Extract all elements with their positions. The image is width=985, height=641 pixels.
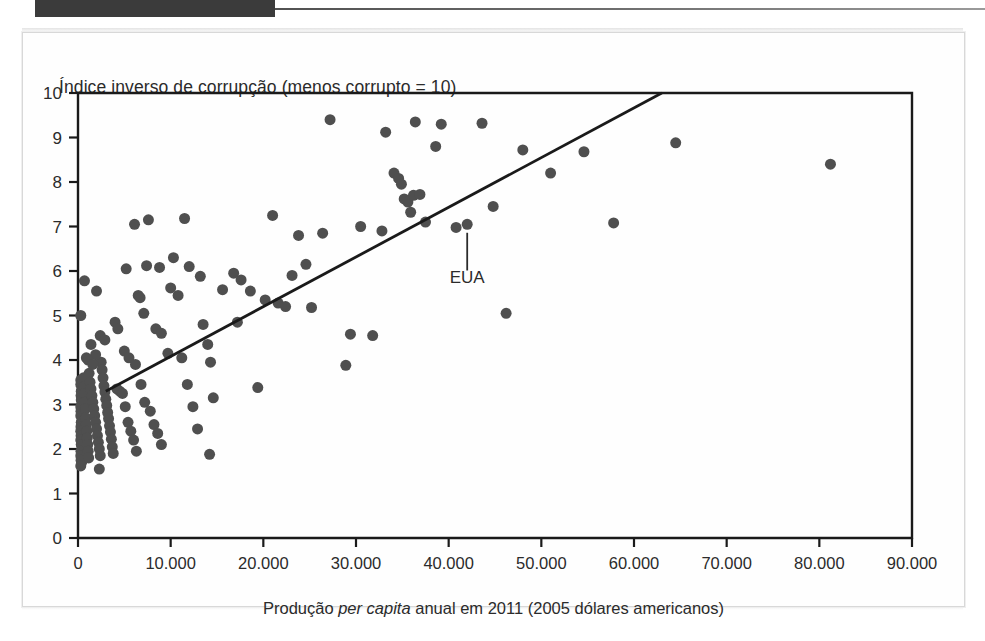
data-point bbox=[117, 388, 128, 399]
data-point bbox=[187, 401, 198, 412]
trendline bbox=[106, 93, 662, 391]
data-point bbox=[75, 460, 86, 471]
data-point bbox=[168, 252, 179, 263]
data-point bbox=[414, 189, 425, 200]
data-point bbox=[236, 274, 247, 285]
data-point bbox=[205, 357, 216, 368]
plot-frame-layer bbox=[78, 93, 912, 538]
data-point bbox=[355, 221, 366, 232]
data-point bbox=[306, 302, 317, 313]
data-point bbox=[94, 464, 105, 475]
data-point bbox=[108, 448, 119, 459]
data-point bbox=[204, 449, 215, 460]
x-tick-label: 30.000 bbox=[331, 554, 381, 572]
x-axis-title-italic: per capita bbox=[338, 599, 410, 617]
data-point bbox=[517, 144, 528, 155]
y-tick-label: 10 bbox=[43, 84, 62, 103]
data-point bbox=[182, 379, 193, 390]
data-point bbox=[136, 379, 147, 390]
y-tick-label: 2 bbox=[53, 440, 62, 459]
data-point bbox=[410, 116, 421, 127]
data-point bbox=[436, 119, 447, 130]
data-point bbox=[367, 330, 378, 341]
data-point bbox=[143, 214, 154, 225]
x-tick-label: 70.000 bbox=[701, 554, 751, 572]
data-point bbox=[129, 219, 140, 230]
data-point bbox=[145, 406, 156, 417]
data-point bbox=[128, 435, 139, 446]
x-tick-label: 0 bbox=[73, 554, 82, 572]
data-point bbox=[293, 230, 304, 241]
data-point bbox=[130, 359, 141, 370]
data-point bbox=[83, 452, 94, 463]
x-tick-label: 60.000 bbox=[609, 554, 659, 572]
y-tick-label: 6 bbox=[53, 262, 62, 281]
y-tick-label: 7 bbox=[53, 218, 62, 237]
data-point bbox=[156, 328, 167, 339]
plot-frame bbox=[78, 93, 912, 538]
x-tick-label: 80.000 bbox=[794, 554, 844, 572]
data-point bbox=[405, 207, 416, 218]
data-point bbox=[208, 392, 219, 403]
data-point bbox=[477, 118, 488, 129]
data-point bbox=[152, 428, 163, 439]
data-point bbox=[396, 179, 407, 190]
data-points-layer bbox=[75, 114, 836, 474]
header-tab-block bbox=[35, 0, 275, 17]
y-tick-label: 9 bbox=[53, 129, 62, 148]
x-axis-title: Produção per capita anual em 2011 (2005 … bbox=[23, 599, 964, 618]
data-point bbox=[179, 213, 190, 224]
data-point bbox=[75, 310, 86, 321]
data-point bbox=[165, 282, 176, 293]
data-point bbox=[287, 270, 298, 281]
data-point bbox=[300, 259, 311, 270]
data-point bbox=[430, 141, 441, 152]
data-point bbox=[267, 210, 278, 221]
data-point bbox=[451, 222, 462, 233]
annotations-layer: EUA bbox=[450, 233, 486, 288]
data-point bbox=[120, 401, 131, 412]
y-tick-label: 3 bbox=[53, 396, 62, 415]
data-point bbox=[198, 319, 209, 330]
data-point bbox=[462, 219, 473, 230]
data-point bbox=[345, 329, 356, 340]
data-point bbox=[99, 334, 110, 345]
x-tick-label: 50.000 bbox=[516, 554, 566, 572]
x-axis-title-after: anual em 2011 (2005 dólares americanos) bbox=[411, 599, 724, 617]
x-tick-label: 20.000 bbox=[238, 554, 288, 572]
x-tick-label: 10.000 bbox=[145, 554, 195, 572]
data-point bbox=[192, 423, 203, 434]
data-point bbox=[340, 360, 351, 371]
data-point bbox=[545, 168, 556, 179]
trendline-layer bbox=[106, 93, 662, 391]
data-point bbox=[112, 323, 123, 334]
data-point bbox=[79, 275, 90, 286]
y-tick-label: 5 bbox=[53, 307, 62, 326]
data-point bbox=[380, 127, 391, 138]
data-point bbox=[608, 217, 619, 228]
data-point bbox=[202, 339, 213, 350]
data-point bbox=[154, 262, 165, 273]
data-point bbox=[195, 271, 206, 282]
data-point bbox=[501, 308, 512, 319]
data-point bbox=[317, 228, 328, 239]
data-point bbox=[245, 286, 256, 297]
data-point bbox=[825, 159, 836, 170]
data-point bbox=[184, 261, 195, 272]
y-tick-label: 4 bbox=[53, 351, 62, 370]
data-point bbox=[95, 450, 106, 461]
scatter-plot: 012345678910010.00020.00030.00040.00050.… bbox=[23, 33, 964, 606]
data-point bbox=[252, 382, 263, 393]
data-point bbox=[131, 446, 142, 457]
y-tick-label: 8 bbox=[53, 173, 62, 192]
data-point bbox=[121, 263, 132, 274]
data-point bbox=[85, 339, 96, 350]
data-point bbox=[141, 260, 152, 271]
data-point bbox=[325, 114, 336, 125]
data-point bbox=[87, 359, 98, 370]
data-point bbox=[578, 146, 589, 157]
x-axis-title-before: Produção bbox=[263, 599, 338, 617]
data-point bbox=[217, 284, 228, 295]
data-point bbox=[670, 137, 681, 148]
data-point bbox=[488, 201, 499, 212]
